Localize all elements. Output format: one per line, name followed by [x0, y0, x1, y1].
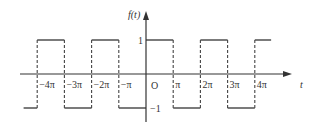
high-level-label: 1 — [138, 35, 143, 46]
x-tick-label: −π — [121, 79, 132, 90]
origin-label: O — [151, 80, 158, 91]
x-tick-label: π — [175, 79, 180, 90]
x-tick-label: 3π — [230, 79, 240, 90]
x-tick-label: 2π — [202, 79, 212, 90]
x-axis-label: t — [300, 79, 303, 90]
x-tick-label: −2π — [94, 79, 110, 90]
square-wave-diagram: f(t) t O 1 −1 −4π−3π−2π−ππ2π3π4π — [0, 0, 310, 132]
y-axis-arrow-icon — [143, 11, 149, 20]
x-axis-arrow-icon — [283, 71, 292, 77]
x-tick-label: −4π — [39, 79, 55, 90]
x-tick-label: 4π — [257, 79, 267, 90]
y-axis-label: f(t) — [128, 9, 141, 21]
x-tick-label: −3π — [66, 79, 82, 90]
low-level-label: −1 — [150, 103, 161, 114]
